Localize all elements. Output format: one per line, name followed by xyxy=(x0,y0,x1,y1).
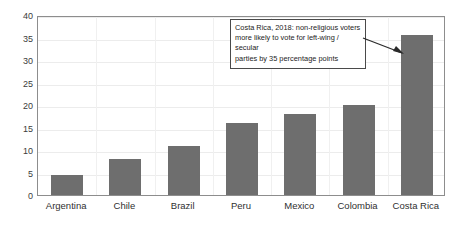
y-axis-tick-label: 20 xyxy=(2,102,33,111)
x-axis: ArgentinaChileBrazilPeruMexicoColombiaCo… xyxy=(37,200,445,220)
x-axis-tick-label: Peru xyxy=(212,200,270,211)
annotation-callout: Costa Rica, 2018: non-religious voters m… xyxy=(230,19,366,69)
y-axis-tick-label: 5 xyxy=(2,170,33,179)
x-axis-tick-label: Chile xyxy=(95,200,153,211)
x-axis-tick-label: Colombia xyxy=(328,200,386,211)
y-axis-tick-label: 30 xyxy=(2,57,33,66)
bar-brazil xyxy=(168,146,200,196)
bar-chile xyxy=(109,159,141,195)
annotation-line-3: parties by 35 percentage points xyxy=(235,54,361,64)
y-axis-tick-label: 10 xyxy=(2,147,33,156)
bar-colombia xyxy=(343,105,375,195)
bar-peru xyxy=(226,123,258,195)
gridline xyxy=(155,17,156,195)
gridline xyxy=(213,17,214,195)
bar-costa-rica xyxy=(401,35,433,195)
y-axis-tick-label: 0 xyxy=(2,192,33,201)
x-axis-tick-label: Mexico xyxy=(270,200,328,211)
gridline xyxy=(388,17,389,195)
y-axis-tick-label: 35 xyxy=(2,35,33,44)
bar-chart-figure: 0510152025303540 ArgentinaChileBrazilPer… xyxy=(0,0,465,242)
y-axis-tick-label: 40 xyxy=(2,12,33,21)
bar-mexico xyxy=(284,114,316,195)
x-axis-tick-label: Argentina xyxy=(37,200,95,211)
bar-argentina xyxy=(51,175,83,195)
annotation-line-1: Costa Rica, 2018: non-religious voters xyxy=(235,23,361,33)
y-axis-tick-label: 25 xyxy=(2,80,33,89)
gridline xyxy=(38,107,444,108)
y-axis: 0510152025303540 xyxy=(0,0,33,242)
x-axis-tick-label: Costa Rica xyxy=(387,200,445,211)
gridline xyxy=(96,17,97,195)
x-axis-tick-label: Brazil xyxy=(154,200,212,211)
gridline xyxy=(38,85,444,86)
annotation-line-2: more likely to vote for left-wing / secu… xyxy=(235,33,361,53)
gridline xyxy=(38,17,444,18)
y-axis-tick-label: 15 xyxy=(2,125,33,134)
